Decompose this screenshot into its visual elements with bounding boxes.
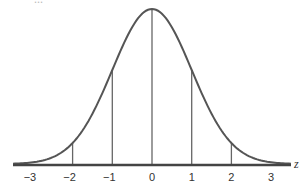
tick-label: 2 (228, 171, 234, 183)
normal-curve-chart: −3−2−10123 z (0, 0, 308, 187)
tick-label: 3 (268, 171, 274, 183)
tick-label: 0 (149, 171, 155, 183)
tick-label: −1 (103, 171, 116, 183)
tick-label: −3 (24, 171, 37, 183)
tick-label: −2 (63, 171, 76, 183)
tick-labels: −3−2−10123 (24, 171, 275, 183)
tick-label: 1 (189, 171, 195, 183)
vertical-reference-lines (73, 9, 232, 165)
z-axis-label: z (293, 157, 299, 171)
